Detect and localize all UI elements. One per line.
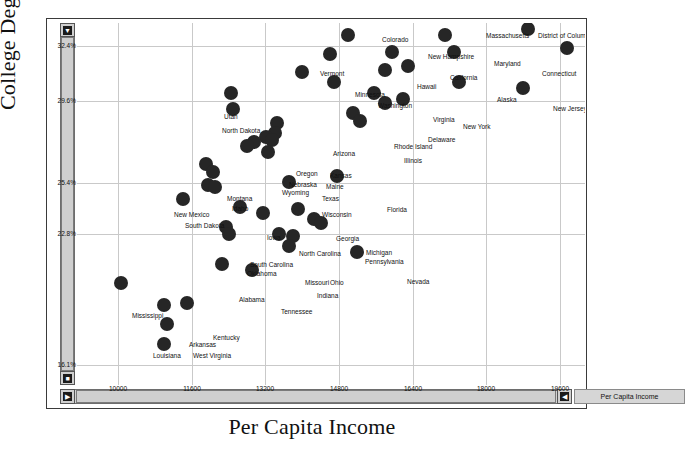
scatter-point-label: Louisiana bbox=[153, 352, 181, 360]
scatter-point-label: West Virginia bbox=[193, 352, 231, 360]
y-axis-tick-labels: 32.4%29.6%25.4%22.8%16.1% bbox=[47, 23, 76, 385]
scatter-point-label: Oklahoma bbox=[247, 270, 277, 278]
x-axis-tick-labels: 10000116001320014800164001800019600 bbox=[77, 385, 585, 397]
y-axis-tick-label: 25.4% bbox=[48, 179, 76, 186]
scatter-point-label: Florida bbox=[387, 206, 407, 214]
scatter-point[interactable] bbox=[256, 206, 270, 220]
gridline-vertical bbox=[486, 23, 487, 385]
scatter-point-label: Oregon bbox=[296, 170, 318, 178]
scatter-plot-area[interactable]: ColoradoMassachusettsDistrict of Columbi… bbox=[77, 23, 585, 385]
scatter-point[interactable] bbox=[378, 63, 392, 77]
scatter-point-label: New Jersey bbox=[553, 105, 585, 113]
scatter-point-label: South Carolina bbox=[250, 261, 293, 269]
scatter-point-label: Missouri bbox=[305, 279, 329, 287]
scatter-point-label: Mississippi bbox=[132, 312, 163, 320]
scatter-point-label: North Dakota bbox=[222, 127, 260, 135]
chart-window: ▼ ■ ▶ ◀ Per Capita Income 32.4%29.6%25.4… bbox=[46, 18, 587, 409]
scatter-point-label: Kansas bbox=[330, 172, 352, 180]
x-axis-tick-label: 14800 bbox=[330, 385, 348, 392]
scatter-point-label: New Hampshire bbox=[428, 53, 474, 61]
scatter-point-label: North Carolina bbox=[299, 250, 341, 258]
scatter-point-label: Idaho bbox=[232, 205, 248, 213]
scatter-point-label: Texas bbox=[322, 195, 339, 203]
x-axis-tick-label: 18000 bbox=[477, 385, 495, 392]
y-axis-tick-label: 16.1% bbox=[48, 361, 76, 368]
scatter-point-label: Arizona bbox=[333, 150, 355, 158]
scatter-point-label: California bbox=[450, 74, 477, 82]
scatter-point[interactable] bbox=[114, 276, 128, 290]
x-axis-tick-label: 13200 bbox=[256, 385, 274, 392]
scatter-point-label: New York bbox=[463, 123, 490, 131]
caret-right-icon: ▶ bbox=[63, 392, 72, 401]
gridline-vertical bbox=[265, 23, 266, 385]
x-axis-tick-label: 11600 bbox=[183, 385, 201, 392]
scatter-point-label: Colorado bbox=[382, 36, 408, 44]
scatter-point-label: Maryland bbox=[494, 60, 521, 68]
x-axis-tick-label: 10000 bbox=[109, 385, 127, 392]
scatter-point-label: Wisconsin bbox=[322, 211, 352, 219]
scatter-point-label: Nevada bbox=[407, 278, 429, 286]
gridline-vertical bbox=[413, 23, 414, 385]
scatter-point-label: Alaska bbox=[497, 96, 517, 104]
scatter-point-label: Virginia bbox=[433, 116, 455, 124]
scatter-point[interactable] bbox=[282, 239, 296, 253]
scatter-point-label: Wyoming bbox=[282, 189, 309, 197]
scatter-point[interactable] bbox=[157, 298, 171, 312]
scatter-point[interactable] bbox=[215, 257, 229, 271]
scatter-point-label: Georgia bbox=[336, 235, 359, 243]
scatter-point-label: Montana bbox=[227, 195, 252, 203]
gridline-vertical bbox=[192, 23, 193, 385]
scatter-point-label: Vermont bbox=[320, 70, 344, 78]
x-axis-tick-label: 16400 bbox=[404, 385, 422, 392]
scatter-point-label: Hawaii bbox=[417, 83, 437, 91]
gridline-vertical bbox=[118, 23, 119, 385]
scatter-point[interactable] bbox=[438, 28, 452, 42]
scatter-point-label: Michigan bbox=[366, 249, 392, 257]
scatter-point-label: Nebraska bbox=[289, 181, 317, 189]
scatter-point-label: Iowa bbox=[267, 234, 281, 242]
scatter-point-label: Tennessee bbox=[281, 308, 312, 316]
scatter-point[interactable] bbox=[261, 145, 275, 159]
gridline-horizontal bbox=[77, 365, 585, 366]
scatter-point[interactable] bbox=[560, 41, 574, 55]
scatter-point-label: Kentucky bbox=[213, 334, 240, 342]
scroll-left-button[interactable]: ▶ bbox=[60, 389, 75, 404]
scatter-point[interactable] bbox=[176, 192, 190, 206]
scatter-point[interactable] bbox=[516, 81, 530, 95]
legend-variable-chip[interactable]: Per Capita Income bbox=[574, 389, 685, 404]
x-axis-title: Per Capita Income bbox=[0, 414, 624, 440]
gridline-horizontal bbox=[77, 234, 585, 235]
scatter-point[interactable] bbox=[353, 114, 367, 128]
scatter-point[interactable] bbox=[401, 59, 415, 73]
scatter-point-label: South Dakota bbox=[185, 222, 224, 230]
scatter-point[interactable] bbox=[341, 28, 355, 42]
scatter-point-label: Washington bbox=[378, 102, 412, 110]
scatter-point-label: Alabama bbox=[239, 296, 265, 304]
scatter-point-label: Arkansas bbox=[189, 341, 216, 349]
scatter-point[interactable] bbox=[291, 202, 305, 216]
scatter-point-label: District of Columbia bbox=[538, 32, 585, 40]
scatter-point-label: Indiana bbox=[317, 292, 338, 300]
scatter-point-label: Rhode Island bbox=[394, 143, 432, 151]
scatter-point-label: New Mexico bbox=[174, 211, 209, 219]
scatter-point-label: Utah bbox=[224, 113, 238, 121]
scatter-point-label: Maine bbox=[326, 183, 344, 191]
y-axis-tick-label: 22.8% bbox=[48, 230, 76, 237]
scatter-point-label: Illinois bbox=[404, 157, 422, 165]
y-axis-tick-label: 32.4% bbox=[48, 42, 76, 49]
scatter-point-label: Connecticut bbox=[542, 70, 576, 78]
scatter-point-label: Minnesota bbox=[355, 91, 385, 99]
scatter-point-label: Massachusetts bbox=[486, 32, 529, 40]
x-axis-tick-label: 19600 bbox=[551, 385, 569, 392]
scatter-point[interactable] bbox=[206, 165, 220, 179]
scatter-point-label: Ohio bbox=[330, 279, 344, 287]
scatter-point[interactable] bbox=[180, 296, 194, 310]
y-axis-title: College Degree % bbox=[0, 0, 21, 110]
y-axis-tick-label: 29.6% bbox=[48, 97, 76, 104]
scatter-point-label: Pennsylvania bbox=[365, 258, 404, 266]
